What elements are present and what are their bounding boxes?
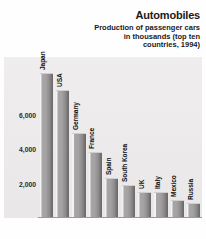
- axis-baseline: [38, 217, 202, 218]
- bar: [187, 203, 200, 218]
- bar: [89, 152, 102, 218]
- bar-group: UK: [138, 57, 151, 218]
- bar-category-label: France: [88, 128, 95, 149]
- bar-group: Mexico: [171, 57, 184, 218]
- y-axis: 2,0004,0006,000: [0, 57, 36, 218]
- chart-figure: Automobiles Production of passenger cars…: [0, 0, 206, 239]
- bar: [154, 192, 167, 218]
- bar: [105, 178, 118, 218]
- bar-category-label: UK: [138, 180, 145, 189]
- bar-group: Italy: [154, 57, 167, 218]
- bar: [72, 133, 85, 218]
- bar: [40, 73, 53, 218]
- bar-category-label: Japan: [39, 52, 46, 71]
- bar-group: Russia: [187, 57, 200, 218]
- bar-group: Japan: [40, 57, 53, 218]
- bar-group: USA: [56, 57, 69, 218]
- page-title: Automobiles: [92, 9, 200, 21]
- bar-group: Spain: [105, 57, 118, 218]
- bar: [171, 200, 184, 218]
- chart-title-block: Automobiles Production of passenger cars…: [92, 9, 200, 50]
- bar-category-label: South Korea: [121, 144, 128, 182]
- bar: [122, 185, 135, 218]
- y-axis-tick-label: 4,000: [4, 146, 36, 153]
- bar: [138, 192, 151, 218]
- bar-group: South Korea: [122, 57, 135, 218]
- bar-group: France: [89, 57, 102, 218]
- bar-category-label: Italy: [154, 176, 161, 189]
- bar-category-label: Russia: [187, 179, 194, 200]
- bar-group: Germany: [72, 57, 85, 218]
- y-axis-tick-label: 2,000: [4, 180, 36, 187]
- bar-category-label: USA: [56, 74, 63, 88]
- bar-category-label: Spain: [105, 157, 112, 174]
- bars-container: JapanUSAGermanyFranceSpainSouth KoreaUKI…: [38, 57, 202, 218]
- bar-category-label: Mexico: [170, 175, 177, 197]
- chart-subtitle: Production of passenger cars in thousand…: [92, 24, 200, 50]
- bar-category-label: Germany: [72, 102, 79, 130]
- bar: [56, 90, 69, 218]
- y-axis-tick-label: 6,000: [4, 112, 36, 119]
